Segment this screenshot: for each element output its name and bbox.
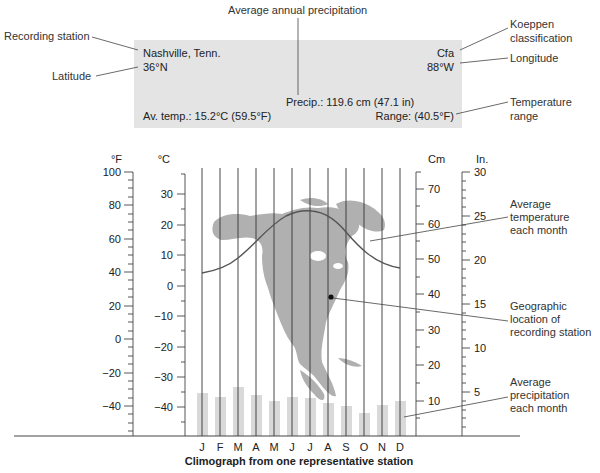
centimeter-axis (416, 172, 424, 436)
geo-location-annotation: location of (510, 313, 561, 325)
cm-tick: 70 (428, 183, 440, 195)
in-tick: 20 (474, 254, 486, 266)
climograph-chart: °F 100 80 60 40 20 0 −20 −40 °C 30 20 10… (0, 140, 600, 455)
in-tick: 30 (474, 166, 486, 178)
fahrenheit-axis (124, 172, 133, 436)
month-label: M (233, 441, 242, 453)
header-leader-lines (0, 0, 600, 140)
avg-temp-annotation: Average (510, 198, 551, 210)
month-label: M (269, 441, 278, 453)
c-unit: °C (158, 153, 170, 165)
month-label: J (289, 441, 295, 453)
avg-temp-annotation: temperature (510, 211, 569, 223)
precipitation-bars (197, 387, 406, 436)
celsius-axis (177, 174, 185, 436)
cm-unit: Cm (428, 153, 445, 165)
f-tick: 100 (103, 166, 121, 178)
c-tick: 0 (167, 280, 173, 292)
f-unit: °F (111, 153, 122, 165)
c-tick: 20 (161, 219, 173, 231)
month-label: J (199, 441, 205, 453)
month-label: S (342, 441, 349, 453)
c-tick: −10 (154, 310, 173, 322)
month-label: J (307, 441, 313, 453)
avg-precip-annotation: Average (510, 376, 551, 388)
month-label: O (360, 441, 369, 453)
in-tick: 10 (474, 342, 486, 354)
geo-location-annotation: Geographic (510, 300, 567, 312)
chart-caption: Climograph from one representative stati… (0, 455, 600, 467)
c-tick: 10 (161, 249, 173, 261)
in-tick: 5 (474, 386, 480, 398)
geo-location-annotation: recording station (510, 326, 591, 338)
avg-precip-annotation: each month (510, 402, 567, 414)
f-tick: 0 (115, 333, 121, 345)
in-tick: 25 (474, 210, 486, 222)
c-tick: −30 (154, 371, 173, 383)
c-tick: −40 (154, 401, 173, 413)
f-tick: 40 (109, 266, 121, 278)
f-tick: 20 (109, 300, 121, 312)
month-labels: J F M A M J J A S O N D (199, 441, 404, 453)
station-location-dot (328, 294, 333, 299)
month-label: F (217, 441, 224, 453)
cm-tick: 60 (428, 218, 440, 230)
cm-tick: 20 (428, 359, 440, 371)
f-tick: −40 (102, 400, 121, 412)
avg-temp-annotation: each month (510, 224, 567, 236)
month-label: D (396, 441, 404, 453)
month-label: N (378, 441, 386, 453)
c-tick: −20 (154, 341, 173, 353)
f-tick: 60 (109, 233, 121, 245)
f-tick: −20 (102, 367, 121, 379)
cm-tick: 40 (428, 288, 440, 300)
cm-tick: 50 (428, 253, 440, 265)
inch-axis (462, 172, 470, 436)
cm-tick: 30 (428, 324, 440, 336)
in-unit: In. (476, 153, 488, 165)
month-label: A (252, 441, 260, 453)
caption-text: Climograph from one representative stati… (185, 455, 414, 467)
f-tick: 80 (109, 199, 121, 211)
c-tick: 30 (161, 188, 173, 200)
avg-precip-annotation: precipitation (510, 389, 569, 401)
cm-tick: 10 (428, 395, 440, 407)
month-label: A (324, 441, 332, 453)
in-tick: 15 (474, 298, 486, 310)
